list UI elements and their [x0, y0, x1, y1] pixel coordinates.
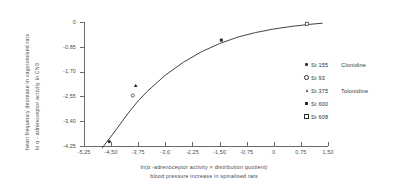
data-point — [306, 22, 309, 25]
x-tick — [301, 142, 302, 146]
y-axis-label-line1: heart frequency decrease in vagotomised … — [24, 34, 30, 150]
legend-marker-open-circle-icon — [302, 75, 311, 80]
legend-compound-name: Tolonidine — [341, 88, 368, 94]
legend-code: St 600 — [311, 101, 337, 107]
x-tick-label: 1,50 — [308, 149, 348, 155]
legend-code: St 608 — [311, 114, 337, 120]
x-tick — [274, 142, 275, 146]
legend-marker-square-icon — [302, 102, 311, 105]
legend-item[interactable]: St 375Tolonidine — [302, 84, 406, 97]
y-tick — [80, 22, 84, 23]
x-tick — [220, 142, 221, 146]
y-tick — [80, 47, 84, 48]
y-tick-label: -0,85 — [42, 44, 76, 50]
figure-container: heart frequency decrease in vagotomised … — [0, 0, 408, 194]
legend-code: St 93 — [311, 75, 337, 81]
y-axis-label-line2: ln α - adrenoceptor activity in CNS — [34, 62, 40, 150]
legend-item[interactable]: St 93 — [302, 71, 406, 84]
x-axis-label-line1: ln(α -adrenoceptor activity × distributi… — [0, 164, 408, 170]
data-point — [220, 39, 223, 42]
x-tick — [192, 142, 193, 146]
y-tick-label: -2,55 — [42, 93, 76, 99]
x-tick — [165, 142, 166, 146]
legend: St 155ClonidineSt 93St 375TolonidineSt 6… — [302, 58, 406, 123]
data-point — [131, 94, 134, 97]
fit-curve — [102, 23, 323, 148]
y-tick-label: 0 — [42, 19, 76, 25]
x-tick — [111, 142, 112, 146]
legend-item[interactable]: St 600 — [302, 97, 406, 110]
y-tick — [80, 72, 84, 73]
legend-code: St 155 — [311, 62, 337, 68]
x-tick — [138, 142, 139, 146]
x-axis-line — [84, 146, 328, 147]
y-tick-label: -4,25 — [42, 143, 76, 149]
data-point — [134, 84, 138, 87]
y-tick-label: -1,70 — [42, 68, 76, 74]
y-tick-label: -3,40 — [42, 118, 76, 124]
x-axis-label-line2: blood pressure increase in spinalised ra… — [0, 173, 408, 179]
legend-code: St 375 — [311, 88, 337, 94]
y-tick — [80, 146, 84, 147]
x-tick — [328, 142, 329, 146]
legend-marker-filled-circle-icon — [302, 63, 311, 66]
y-tick — [80, 121, 84, 122]
legend-item[interactable]: St 155Clonidine — [302, 58, 406, 71]
y-axis-line — [84, 22, 85, 146]
x-tick — [247, 142, 248, 146]
y-tick — [80, 96, 84, 97]
legend-marker-triangle-icon — [302, 89, 311, 92]
x-tick — [84, 142, 85, 146]
legend-marker-open-square-icon — [302, 114, 311, 119]
legend-compound-name: Clonidine — [341, 62, 366, 68]
legend-item[interactable]: St 608 — [302, 110, 406, 123]
